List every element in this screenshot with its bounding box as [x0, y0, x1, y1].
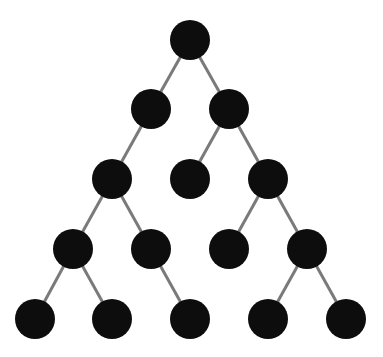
tree-node: [92, 299, 132, 339]
tree-node: [248, 159, 288, 199]
tree-node: [131, 89, 171, 129]
tree-node: [53, 229, 93, 269]
tree-node: [131, 229, 171, 269]
tree-node: [170, 159, 210, 199]
tree-node: [170, 20, 210, 60]
tree-node: [170, 299, 210, 339]
tree-node: [209, 89, 249, 129]
tree-node: [326, 299, 366, 339]
tree-node: [15, 299, 55, 339]
tree-node: [92, 159, 132, 199]
nodes-layer: [15, 20, 366, 339]
tree-node: [248, 299, 288, 339]
tree-node: [209, 229, 249, 269]
tree-node: [287, 229, 327, 269]
tree-diagram: [0, 0, 383, 357]
